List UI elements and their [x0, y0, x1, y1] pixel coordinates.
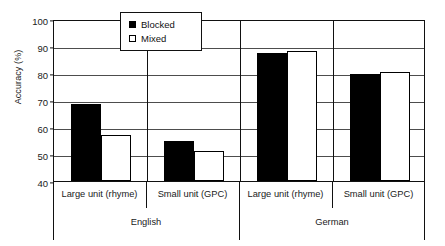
x-group-tick: [239, 208, 240, 240]
bar-mixed: [287, 51, 317, 181]
legend-item-blocked: Blocked: [129, 17, 195, 31]
unit-separator: [333, 21, 334, 181]
filled-square-icon: [129, 21, 136, 28]
bar-mixed: [101, 135, 131, 181]
bar-blocked: [71, 104, 101, 181]
y-tick-label: 80: [37, 70, 48, 81]
y-tick-label: 40: [37, 178, 48, 189]
x-unit-tick: [332, 182, 333, 208]
x-axis-group-labels: EnglishGerman: [53, 208, 425, 240]
x-group-tick: [53, 208, 54, 240]
plot-area: 405060708090100: [53, 20, 425, 182]
gridline: [54, 48, 424, 49]
x-group-label: English: [53, 217, 239, 227]
bar-blocked: [350, 74, 380, 181]
y-tick-label: 50: [37, 151, 48, 162]
bar-blocked: [257, 53, 287, 181]
y-tick-mark: [50, 47, 54, 48]
unit-separator: [240, 21, 241, 181]
x-axis-unit-labels: Large unit (rhyme)Small unit (GPC)Large …: [53, 182, 425, 208]
bar-mixed: [194, 151, 224, 181]
y-tick-mark: [50, 74, 54, 75]
legend: Blocked Mixed: [120, 12, 202, 51]
y-axis-title: Accuracy (%): [13, 22, 23, 132]
x-unit-tick: [146, 182, 147, 208]
y-tick-mark: [50, 20, 54, 21]
x-unit-tick: [53, 182, 54, 208]
x-unit-tick: [424, 182, 425, 208]
y-tick-label: 100: [32, 16, 48, 27]
legend-label-blocked: Blocked: [141, 19, 175, 30]
y-tick-mark: [50, 128, 54, 129]
x-group-tick: [424, 208, 425, 240]
y-tick-mark: [50, 155, 54, 156]
y-tick-label: 90: [37, 43, 48, 54]
y-tick-label: 60: [37, 124, 48, 135]
x-unit-label: Small unit (GPC): [146, 189, 239, 199]
y-tick-mark: [50, 101, 54, 102]
x-group-label: German: [239, 217, 425, 227]
x-unit-label: Large unit (rhyme): [239, 189, 332, 199]
x-unit-label: Large unit (rhyme): [53, 189, 146, 199]
y-tick-label: 70: [37, 97, 48, 108]
bar-blocked: [164, 141, 194, 182]
open-square-icon: [129, 35, 136, 42]
x-unit-label: Small unit (GPC): [332, 189, 425, 199]
legend-item-mixed: Mixed: [129, 31, 195, 45]
bar-chart-figure: Accuracy (%) 405060708090100 Blocked Mix…: [0, 0, 445, 246]
x-unit-tick: [239, 182, 240, 208]
legend-label-mixed: Mixed: [141, 33, 166, 44]
bar-mixed: [380, 72, 410, 181]
